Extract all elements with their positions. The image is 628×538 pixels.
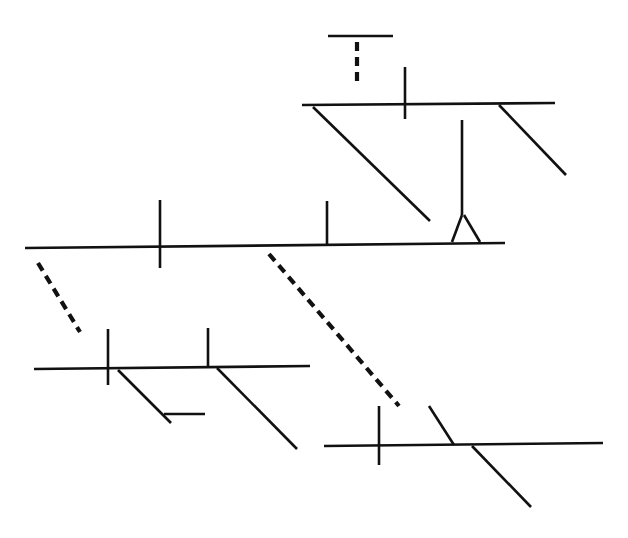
connector-center: [269, 254, 399, 406]
lower-right-modifier: [472, 446, 531, 507]
lower-left-baseline: [34, 366, 310, 369]
sentence-diagram: [0, 0, 628, 538]
upper-clause-baseline: [302, 103, 555, 105]
lower-right-baseline: [324, 443, 603, 446]
lower-right-slant-above: [429, 406, 454, 445]
upper-clause-modifier-right: [499, 105, 566, 175]
upper-clause-modifier-left: [313, 107, 430, 221]
connector-left: [38, 263, 80, 332]
main-baseline: [25, 243, 505, 248]
pedestal-leg-right: [464, 215, 480, 242]
pedestal-leg-left: [452, 215, 462, 242]
lower-left-modifier-b: [217, 368, 297, 449]
lower-left-modifier-a: [118, 370, 171, 423]
